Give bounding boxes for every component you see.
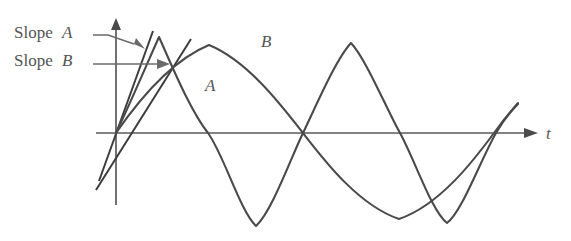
curve-a-label: A [204, 76, 216, 95]
slope-b-symbol: B [62, 51, 73, 70]
slope-b-annotation: Slope B [14, 51, 73, 70]
tangent-line-slope-a [99, 31, 153, 181]
sine-curves-figure: Slope A Slope B A B t [0, 0, 571, 241]
tangent-line-slope-b [96, 39, 191, 190]
slope-a-symbol: A [61, 23, 73, 42]
tangent-lines-group [96, 31, 191, 190]
leader-line-slope-a [93, 35, 134, 44]
x-axis-label: t [546, 124, 552, 143]
x-axis-arrowhead [524, 128, 538, 138]
slope-a-prefix: Slope [14, 23, 53, 42]
slope-b-prefix: Slope [14, 51, 53, 70]
leader-arrowhead-slope-a [134, 38, 145, 49]
leader-arrowhead-slope-b [157, 59, 170, 69]
y-axis-arrowhead [111, 18, 121, 30]
slope-a-annotation: Slope A [14, 23, 73, 42]
curve-b-path [116, 45, 518, 219]
figure-container: Slope A Slope B A B t [0, 0, 571, 241]
curve-b-label: B [261, 32, 272, 51]
